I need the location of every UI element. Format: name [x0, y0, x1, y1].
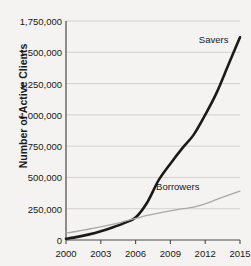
x-tick-label: 2000 — [55, 248, 76, 259]
series-label-borrowers: Borrowers — [156, 181, 199, 192]
x-tick-label: 2012 — [195, 248, 216, 259]
x-tick-label: 2009 — [160, 248, 181, 259]
series-line-borrowers — [66, 191, 240, 233]
axis-lines — [66, 21, 240, 240]
x-tick-label: 2003 — [90, 248, 111, 259]
x-tick-label: 2006 — [125, 248, 146, 259]
line-chart: Number of Active Clients 0250,000500,000… — [0, 0, 251, 266]
x-tick-label: 2015 — [229, 248, 250, 259]
gridlines — [66, 21, 240, 209]
series-label-savers: Savers — [199, 33, 229, 44]
x-axis-tick-marks — [66, 240, 240, 244]
